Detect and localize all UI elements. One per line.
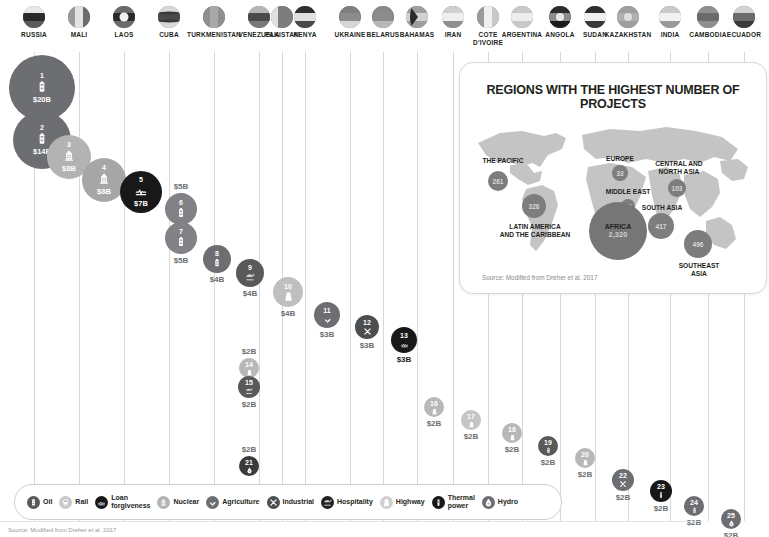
bubble-rank: 3 (67, 141, 71, 148)
oil-icon (545, 447, 552, 454)
legend-item-oil: Oil (27, 496, 52, 509)
hydro-icon (728, 520, 735, 527)
region-projects-count: 496 (693, 241, 704, 248)
legend-item-agriculture: Agriculture (206, 496, 259, 509)
region-label-middle-east: MIDDLE EAST (588, 188, 668, 196)
bubble-value-label: $2B (669, 518, 719, 527)
loan-bubble-9: 9 (236, 259, 264, 287)
highway-icon (380, 496, 393, 509)
bubble-value: $8B (62, 164, 76, 173)
bubble-value-label: $3B (342, 341, 392, 350)
bubble-value-label: $2B (636, 504, 686, 513)
bubble-value-label: $2B (523, 458, 573, 467)
guide-line (708, 52, 709, 62)
guide-line (744, 52, 745, 62)
region-label-the-pacific: THE PACIFIC (468, 157, 538, 165)
bubble-value-label: $2B (706, 531, 756, 537)
highway-icon (246, 369, 253, 376)
industrial-icon (619, 480, 627, 488)
legend-label: Industrial (283, 498, 315, 506)
guide-line (560, 292, 561, 521)
region-projects-count: 2,320 (609, 230, 628, 239)
highway-icon (431, 408, 438, 415)
loan-bubble-16: 16 (424, 397, 444, 417)
loan-bubble-7: 7 (165, 222, 197, 254)
region-bubble-europe: 33 (612, 165, 628, 181)
country-column-ecuador: ECUADOR (714, 0, 769, 39)
bubble-rank: 14 (245, 361, 253, 368)
oil-icon (175, 236, 187, 248)
hospitality-icon (245, 272, 255, 282)
bubble-value-label: $2B (224, 400, 274, 409)
bubble-rank: 6 (179, 199, 183, 206)
highway-icon (283, 291, 294, 302)
oil-icon (175, 207, 187, 219)
hospitality-icon (245, 387, 253, 395)
loan-bubble-25: 25 (721, 509, 741, 529)
legend-label: Oil (43, 498, 52, 506)
region-bubble-south-asia: 417 (648, 213, 674, 239)
loan-bubble-15: 15 (238, 376, 260, 398)
region-bubble-central-and-north-asia: 103 (668, 179, 686, 197)
bubble-value-label: $3B (302, 330, 352, 339)
bubble-value-label: $2B (446, 432, 496, 441)
bubble-rank: 18 (508, 426, 516, 433)
region-label-europe: EUROPE (590, 155, 650, 163)
guide-line (417, 52, 418, 521)
loan-bubble-24: 24 (684, 496, 704, 516)
legend-item-loan-forgiveness: Loan forgiveness (95, 494, 150, 510)
loan-forgiveness-icon (400, 340, 409, 349)
guide-line (628, 52, 629, 62)
loan-bubble-10: 10 (273, 277, 303, 307)
region-projects-count: 417 (656, 223, 667, 230)
bubble-value-label: $2B (560, 470, 610, 479)
loan-bubble-22: 22 (612, 469, 634, 491)
guide-line (383, 52, 384, 521)
infographic-canvas: RUSSIAMALILAOSCUBATURKMENISTANVENEZUELAP… (0, 0, 769, 537)
bubble-rank: 2 (40, 124, 44, 131)
region-bubble-africa: AFRICA2,320 (589, 202, 647, 260)
hydro-icon (482, 496, 495, 509)
legend-label: Highway (396, 498, 425, 506)
bubble-rank: 5 (139, 176, 143, 183)
legend-item-thermal-power: Thermal power (432, 494, 475, 510)
guide-line (708, 292, 709, 521)
region-bubble-southeast-asia: 496 (684, 230, 712, 258)
bubble-rank: 12 (363, 319, 371, 326)
loan-bubble-5: 5$7B (120, 171, 162, 213)
legend-item-rail: Rail (59, 496, 88, 509)
bubble-rank: 4 (102, 164, 106, 171)
world-map: THE PACIFIC261LATIN AMERICA AND THE CARI… (470, 105, 756, 255)
bubble-value-label: $2B (598, 493, 648, 502)
loan-bubble-11: 11 (314, 302, 340, 328)
region-name-inline: AFRICA (605, 223, 631, 230)
legend-item-hospitality: Hospitality (321, 496, 373, 509)
guide-line (124, 52, 125, 521)
bubble-rank: 9 (248, 264, 252, 271)
loan-forgiveness-icon (95, 496, 108, 509)
bubble-value-label: $5B (156, 256, 206, 265)
guide-line (350, 52, 351, 521)
bubble-value-label: $2B (409, 419, 459, 428)
industrial-icon (363, 327, 372, 336)
region-label-latin-america-and-the-caribbean: LATIN AMERICA AND THE CARIBBEAN (492, 223, 578, 238)
bubble-value-label: $2B (224, 347, 274, 356)
guide-line (169, 52, 170, 521)
hospitality-icon (321, 496, 334, 509)
loan-bubble-14: 14 (239, 358, 259, 378)
region-projects-count: 326 (529, 203, 540, 210)
hydro-icon (246, 467, 253, 474)
bubble-rank: 23 (657, 483, 665, 490)
bubble-rank: 13 (400, 332, 408, 339)
guide-line (595, 52, 596, 62)
loan-bubble-8: 8 (203, 245, 231, 273)
loan-forgiveness-icon (134, 184, 148, 198)
guide-line (305, 52, 306, 521)
oil-icon (212, 258, 222, 268)
flag-icon (203, 6, 225, 28)
loan-bubble-21: 21 (239, 456, 259, 476)
legend-item-industrial: Industrial (267, 496, 315, 509)
bubble-rank: 10 (284, 283, 292, 290)
nuclear-icon (97, 172, 111, 186)
industrial-icon (267, 496, 280, 509)
